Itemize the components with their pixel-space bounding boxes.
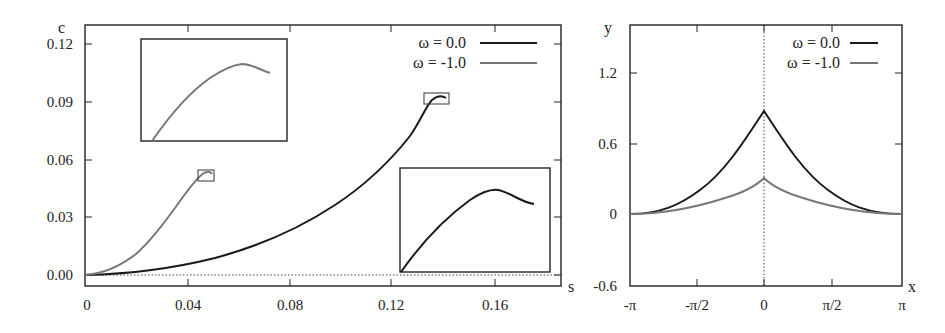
inset-omega-minus1 bbox=[141, 39, 287, 141]
x-tick-label: 0.08 bbox=[277, 297, 303, 313]
legend-label-omega-minus1: ω = -1.0 bbox=[787, 54, 840, 71]
right-legend: ω = 0.0 ω = -1.0 bbox=[787, 34, 878, 71]
x-axis-label-s: s bbox=[568, 278, 574, 295]
x-tick-label: -π/2 bbox=[685, 297, 709, 313]
right-y-tick-labels: -0.6 0 0.6 1.2 bbox=[593, 65, 617, 294]
x-tick-label: 0.12 bbox=[378, 297, 404, 313]
y-tick-label: 0 bbox=[610, 206, 618, 222]
legend-label-omega-0: ω = 0.0 bbox=[418, 34, 466, 51]
left-panel: 0.00 0.03 0.06 0.09 0.12 0 0.04 0.08 0.1… bbox=[47, 19, 574, 313]
x-tick-label: 0 bbox=[83, 297, 91, 313]
y-tick-label: 0.6 bbox=[598, 136, 617, 152]
x-tick-label: π bbox=[898, 297, 906, 313]
x-tick-label: π/2 bbox=[822, 297, 841, 313]
legend-label-omega-minus1: ω = -1.0 bbox=[413, 54, 466, 71]
curve-omega-minus1 bbox=[85, 172, 212, 275]
y-tick-label: -0.6 bbox=[593, 278, 617, 294]
left-legend: ω = 0.0 ω = -1.0 bbox=[413, 34, 537, 71]
x-tick-label: 0.16 bbox=[482, 297, 509, 313]
right-plot-frame bbox=[630, 25, 902, 286]
y-tick-label: 0.00 bbox=[47, 267, 73, 283]
left-y-tick-labels: 0.00 0.03 0.06 0.09 0.12 bbox=[47, 36, 74, 283]
inset-omega-0 bbox=[400, 168, 550, 272]
x-tick-label: 0.04 bbox=[175, 297, 202, 313]
y-tick-label: 1.2 bbox=[598, 65, 617, 81]
curve-omega-0-right bbox=[630, 111, 902, 214]
x-tick-label: 0 bbox=[760, 297, 768, 313]
y-axis-label-y: y bbox=[604, 19, 612, 37]
figure: 0.00 0.03 0.06 0.09 0.12 0 0.04 0.08 0.1… bbox=[0, 0, 945, 333]
y-tick-label: 0.03 bbox=[47, 209, 73, 225]
y-tick-label: 0.06 bbox=[47, 152, 74, 168]
right-x-tick-labels: -π -π/2 0 π/2 π bbox=[624, 297, 907, 313]
right-y-ticks bbox=[630, 73, 902, 214]
legend-label-omega-0: ω = 0.0 bbox=[792, 34, 840, 51]
x-tick-label: -π bbox=[624, 297, 637, 313]
y-tick-label: 0.09 bbox=[47, 94, 73, 110]
left-x-tick-labels: 0 0.04 0.08 0.12 0.16 bbox=[83, 297, 508, 313]
x-axis-label-x: x bbox=[908, 278, 916, 295]
right-panel: -0.6 0 0.6 1.2 -π -π/2 0 π/2 π y x ω = 0… bbox=[593, 19, 916, 313]
y-axis-label-c: c bbox=[58, 19, 65, 36]
y-tick-label: 0.12 bbox=[47, 36, 73, 52]
